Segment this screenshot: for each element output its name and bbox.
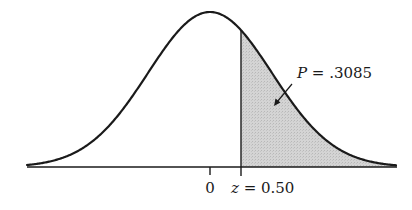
tick-label-z: z = 0.50 [230,179,294,197]
z-value: = 0.50 [239,179,295,197]
tick-label-zero: 0 [205,179,215,197]
normal-distribution-chart: 0 z = 0.50 P = .3085 [0,0,412,210]
p-value: = .3085 [307,64,372,82]
probability-annotation: P = .3085 [296,64,372,82]
shaded-tail-region [241,30,396,167]
z-variable: z [230,179,239,197]
normal-curve [27,12,396,165]
